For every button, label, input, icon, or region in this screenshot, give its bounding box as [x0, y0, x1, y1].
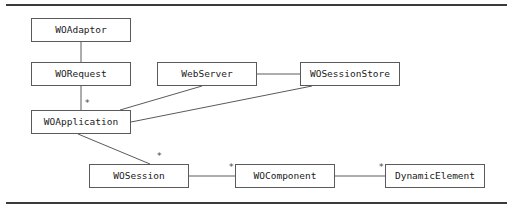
- class-name-label: WORequest: [55, 69, 106, 79]
- connector-e-sessionstore-application: [131, 86, 312, 122]
- class-box-wosessionstore[interactable]: WOSessionStore: [300, 62, 400, 86]
- uml-class-diagram: WOAdaptor WORequest WOApplication WebSer…: [0, 0, 513, 210]
- class-name-label: WOSessionStore: [310, 69, 390, 79]
- multiplicity-marker-woapplication: *: [85, 99, 90, 108]
- multiplicity-marker-dynamicelement: *: [379, 163, 384, 172]
- connector-e-webserver-application: [120, 86, 202, 110]
- class-name-label: WOComponent: [254, 171, 317, 181]
- class-name-label: WebServer: [181, 69, 232, 79]
- connector-e-application-session: [78, 134, 150, 164]
- class-name-label: WOAdaptor: [55, 25, 106, 35]
- class-box-worequest[interactable]: WORequest: [31, 62, 131, 86]
- class-box-dynamicelement[interactable]: DynamicElement: [385, 164, 485, 188]
- multiplicity-marker-wosession: *: [157, 152, 162, 161]
- class-box-woapplication[interactable]: WOApplication: [31, 110, 131, 134]
- class-name-label: WOApplication: [44, 117, 118, 127]
- class-box-wocomponent[interactable]: WOComponent: [235, 164, 335, 188]
- class-name-label: WOSession: [113, 171, 164, 181]
- multiplicity-marker-wocomponent: *: [229, 163, 234, 172]
- bottom-divider-rule: [6, 202, 507, 204]
- class-box-woadaptor[interactable]: WOAdaptor: [31, 18, 131, 42]
- class-box-webserver[interactable]: WebServer: [157, 62, 257, 86]
- class-name-label: DynamicElement: [395, 171, 475, 181]
- top-divider-rule: [6, 4, 507, 6]
- class-box-wosession[interactable]: WOSession: [89, 164, 189, 188]
